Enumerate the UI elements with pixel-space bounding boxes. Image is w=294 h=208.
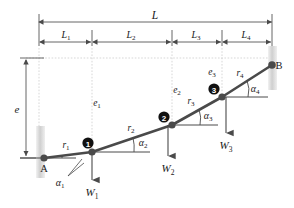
angle-label-alpha1: α1 [56, 177, 65, 190]
dimension-label-L: L [151, 9, 158, 21]
member-label-r4: r4 [236, 68, 244, 80]
node-marker-1 [88, 148, 95, 155]
node-marker-2 [168, 121, 175, 128]
dimension-label-e: e [15, 103, 20, 115]
angle-arc-4 [247, 80, 249, 97]
dimension-overall: L [39, 9, 272, 46]
angle-arc-3 [199, 109, 201, 125]
node-badge-2-label: 2 [162, 114, 167, 123]
member-label-r3: r3 [187, 96, 195, 108]
node-marker-a [40, 154, 47, 161]
member-label-r1: r1 [62, 140, 70, 152]
support-label-b: B [275, 60, 282, 71]
offset-label-e1: e1 [93, 98, 101, 110]
dimension-label-L1: L1 [60, 29, 71, 42]
node-badges: 1 2 3 [82, 83, 219, 148]
node-marker-3 [218, 93, 225, 100]
node-badge-3-label: 3 [212, 86, 217, 95]
member-label-r2: r2 [127, 123, 135, 135]
angle-arc-2 [133, 138, 134, 152]
member-r1 [44, 152, 92, 158]
leader-alpha1 [68, 159, 84, 176]
support-label-a: A [40, 163, 48, 174]
figure-container: L L1 L2 L3 L4 [0, 0, 294, 208]
dimension-label-L2: L2 [125, 29, 136, 42]
angle-label-alpha4: α4 [251, 83, 260, 96]
angle-labels: α1 α2 α3 α4 [56, 83, 260, 190]
member-r3 [172, 97, 222, 125]
angle-label-alpha2: α2 [139, 137, 148, 150]
load-label-W3: W3 [220, 139, 233, 154]
dimension-label-L3: L3 [190, 29, 201, 42]
leader-line-alpha1 [68, 159, 82, 176]
dimension-label-L4: L4 [240, 29, 251, 42]
offset-label-e3: e3 [208, 67, 216, 79]
beam-members [44, 65, 272, 158]
beam-diagram: L L1 L2 L3 L4 [0, 0, 294, 208]
leader-line-alpha1-b [68, 163, 84, 176]
dimension-segments: L1 L2 L3 L4 [40, 29, 271, 46]
offset-labels: e1 e2 e3 [93, 67, 216, 110]
load-label-W1: W1 [86, 186, 99, 201]
load-label-W2: W2 [162, 162, 175, 177]
load-labels: W1 W2 W3 [86, 139, 233, 201]
node-badge-1-label: 1 [86, 140, 91, 149]
offset-label-e2: e2 [173, 85, 181, 97]
angle-label-alpha3: α3 [204, 110, 213, 123]
